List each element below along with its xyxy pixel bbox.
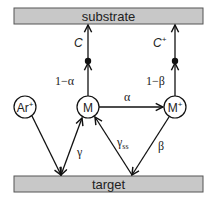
edge-mplus-to-substrate bbox=[172, 25, 178, 96]
one-minus-beta-label: 1−β bbox=[146, 74, 165, 88]
sputtering-diagram: substrate target C 1−α C+ 1−β α γ γss β … bbox=[0, 0, 215, 202]
substrate-box: substrate bbox=[14, 8, 203, 24]
edge-ar-to-target bbox=[32, 116, 61, 175]
gamma-label: γ bbox=[76, 145, 83, 159]
beta-label: β bbox=[158, 139, 164, 153]
edge-m-to-substrate bbox=[85, 25, 91, 96]
one-minus-alpha-label: 1−α bbox=[55, 74, 75, 88]
c-label: C bbox=[74, 36, 83, 50]
junction-dot bbox=[85, 58, 91, 64]
node-m-plus: M+ bbox=[164, 96, 186, 118]
alpha-label: α bbox=[124, 90, 131, 104]
node-m: M bbox=[77, 96, 99, 118]
node-ar-plus: Ar+ bbox=[14, 96, 36, 118]
target-box: target bbox=[14, 176, 203, 192]
cplus-label: C+ bbox=[153, 35, 167, 50]
svg-text:M: M bbox=[83, 101, 93, 115]
target-label: target bbox=[92, 177, 126, 192]
junction-dot bbox=[172, 58, 178, 64]
gamma-ss-label: γss bbox=[116, 135, 129, 151]
substrate-label: substrate bbox=[82, 9, 135, 24]
